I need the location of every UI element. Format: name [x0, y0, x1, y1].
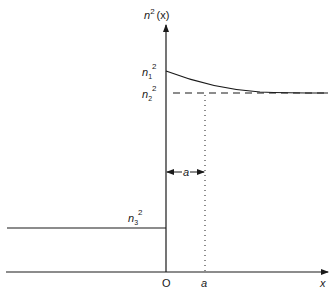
n1-label: n12	[142, 62, 157, 80]
n2-label: n22	[142, 84, 157, 102]
a-tick-label: a	[201, 277, 207, 289]
index-profile-diagram: n2(x) n32 n12 n22 a O a x	[0, 0, 334, 292]
width-annotation-label: a	[183, 166, 189, 178]
origin-label: O	[162, 277, 171, 289]
x-axis-label: x	[319, 277, 326, 289]
y-axis-label: n2(x)	[144, 7, 169, 21]
profile-curve	[166, 71, 328, 93]
n3-label: n32	[128, 208, 143, 226]
